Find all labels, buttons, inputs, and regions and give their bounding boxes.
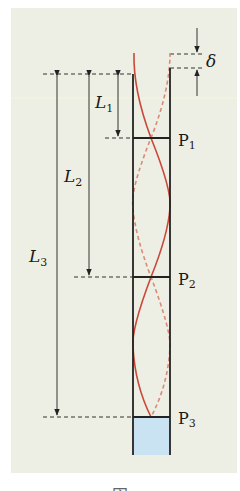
resonance-tube-diagram: L1 L2 L3 δ P1 P2 P3 (0, 0, 240, 491)
figure-caption: 図 (0, 482, 240, 491)
water (133, 417, 170, 455)
label-delta: δ (206, 51, 216, 71)
figure-panel (11, 8, 237, 473)
